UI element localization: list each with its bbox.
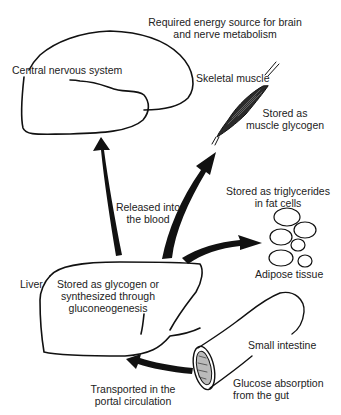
adipose-note: Stored as triglycerides in fat cells: [220, 185, 336, 209]
intestine-note: Glucose absorption from the gut: [233, 377, 323, 401]
arrow-liver-to-cns: [93, 137, 122, 256]
liver-note: Stored as glycogen or synthesized throug…: [48, 278, 168, 314]
cns-note: Required energy source for brain and ner…: [125, 16, 325, 40]
adipose-label: Adipose tissue: [255, 268, 323, 280]
liver-label: Liver: [20, 278, 43, 290]
muscle-label: Skeletal muscle: [196, 72, 270, 84]
brain-icon: [21, 31, 192, 134]
edge-label-portal-circulation: Transported in the portal circulation: [78, 383, 188, 407]
edge-label-released-into-blood: Released into the blood: [108, 201, 188, 225]
cns-label: Central nervous system: [12, 64, 122, 76]
arrow-liver-to-adipose: [182, 235, 262, 264]
arrow-intestine-to-liver: [126, 354, 193, 374]
muscle-note: Stored as muscle glycogen: [240, 107, 330, 131]
fat-cells-icon: [269, 208, 316, 267]
intestine-label: Small intestine: [248, 339, 316, 351]
glucose-diagram: Required energy source for brain and ner…: [0, 0, 341, 415]
